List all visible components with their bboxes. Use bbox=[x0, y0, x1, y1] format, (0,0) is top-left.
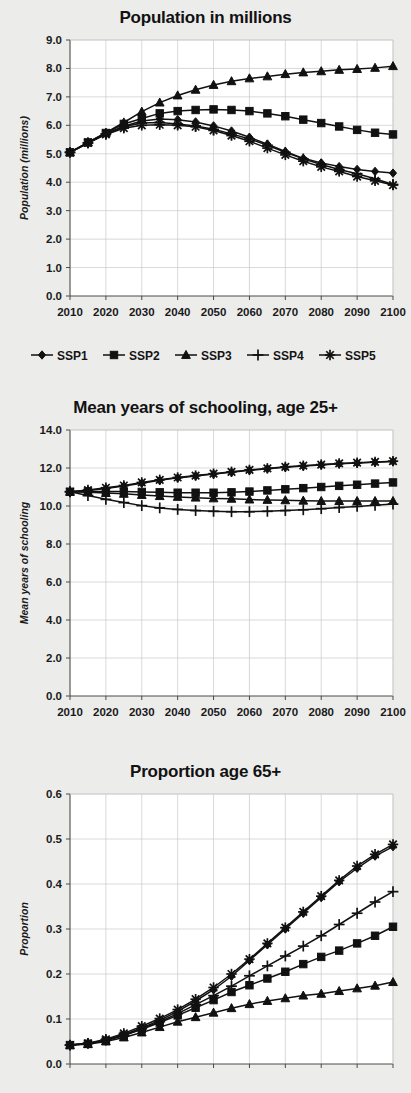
legend-label-SSP2: SSP2 bbox=[129, 349, 160, 363]
marker-SSP5 bbox=[101, 1034, 111, 1044]
legend-entry-SSP4 bbox=[247, 350, 269, 361]
figure-page: Population in millions 0.01.02.03.04.05.… bbox=[0, 0, 411, 1093]
marker-SSP5 bbox=[316, 891, 326, 901]
marker-SSP5 bbox=[101, 129, 111, 139]
x-tick-label: 2090 bbox=[344, 306, 370, 318]
chart-panel-population: Population in millions 0.01.02.03.04.05.… bbox=[0, 0, 411, 386]
y-tick-label: 0.0 bbox=[46, 290, 62, 302]
marker-SSP2 bbox=[353, 481, 360, 488]
marker-SSP2 bbox=[389, 923, 396, 930]
y-tick-label: 2.0 bbox=[46, 652, 62, 664]
marker-SSP5 bbox=[280, 150, 290, 160]
marker-SSP2 bbox=[264, 110, 271, 117]
x-tick-label: 2010 bbox=[57, 706, 83, 718]
marker-SSP5 bbox=[83, 138, 93, 148]
legend-entry-SSP5 bbox=[319, 350, 341, 360]
marker-SSP5 bbox=[370, 176, 380, 186]
schooling-chart-svg: 0.02.04.06.08.010.012.014.02010202020302… bbox=[0, 418, 411, 738]
marker-SSP2 bbox=[192, 106, 199, 113]
marker-SSP2 bbox=[246, 982, 253, 989]
marker-SSP5 bbox=[334, 458, 344, 468]
marker-SSP5 bbox=[101, 483, 111, 493]
x-tick-label: 2090 bbox=[344, 706, 370, 718]
marker-SSP2 bbox=[335, 482, 342, 489]
marker-SSP5 bbox=[244, 954, 254, 964]
marker-SSP5 bbox=[119, 123, 129, 133]
marker-SSP5 bbox=[262, 463, 272, 473]
y-tick-label: 1.0 bbox=[46, 262, 62, 274]
chart-title-population: Population in millions bbox=[0, 8, 411, 28]
marker-SSP2 bbox=[282, 486, 289, 493]
x-tick-label: 2030 bbox=[129, 706, 155, 718]
x-tick-label: 2020 bbox=[93, 706, 119, 718]
marker-SSP5 bbox=[262, 143, 272, 153]
y-tick-label: 3.0 bbox=[46, 205, 62, 217]
marker-SSP5 bbox=[208, 982, 218, 992]
y-tick-label: 5.0 bbox=[46, 148, 62, 160]
x-tick-label: 2040 bbox=[165, 306, 191, 318]
y-tick-label: 0.6 bbox=[46, 788, 62, 800]
x-tick-label: 2070 bbox=[273, 306, 299, 318]
legend-marker-asterisk bbox=[325, 350, 335, 360]
marker-SSP2 bbox=[371, 129, 378, 136]
marker-SSP5 bbox=[316, 162, 326, 172]
marker-SSP5 bbox=[119, 480, 129, 490]
x-tick-label: 2060 bbox=[237, 706, 263, 718]
chart-legend: SSP1SSP2SSP3SSP4SSP5 bbox=[0, 338, 411, 372]
marker-SSP2 bbox=[318, 483, 325, 490]
marker-SSP5 bbox=[316, 459, 326, 469]
marker-SSP5 bbox=[65, 1040, 75, 1050]
marker-SSP5 bbox=[155, 1013, 165, 1023]
legend-marker-diamond bbox=[38, 351, 45, 359]
marker-SSP5 bbox=[226, 467, 236, 477]
marker-SSP5 bbox=[388, 180, 398, 190]
marker-SSP5 bbox=[280, 462, 290, 472]
marker-SSP5 bbox=[190, 470, 200, 480]
marker-SSP5 bbox=[352, 861, 362, 871]
marker-SSP2 bbox=[389, 479, 396, 486]
marker-SSP5 bbox=[155, 120, 165, 130]
y-tick-label: 0.0 bbox=[46, 1058, 62, 1070]
marker-SSP5 bbox=[155, 475, 165, 485]
x-tick-label: 2050 bbox=[201, 306, 227, 318]
x-tick-label: 2100 bbox=[380, 706, 406, 718]
x-tick-label: 2060 bbox=[237, 306, 263, 318]
population-chart-svg: 0.01.02.03.04.05.06.07.08.09.02010202020… bbox=[0, 28, 411, 338]
legend-entry-SSP3 bbox=[175, 350, 197, 358]
marker-SSP5 bbox=[298, 156, 308, 166]
chart-panel-proportion: Proportion age 65+ 0.00.10.20.30.40.50.6… bbox=[0, 748, 411, 1093]
marker-SSP2 bbox=[371, 932, 378, 939]
marker-SSP2 bbox=[300, 960, 307, 967]
marker-SSP2 bbox=[371, 480, 378, 487]
legend-label-SSP3: SSP3 bbox=[201, 349, 232, 363]
marker-SSP5 bbox=[388, 456, 398, 466]
marker-SSP2 bbox=[228, 106, 235, 113]
marker-SSP5 bbox=[83, 485, 93, 495]
marker-SSP5 bbox=[208, 125, 218, 135]
y-tick-label: 0.5 bbox=[46, 833, 63, 845]
y-tick-label: 8.0 bbox=[46, 538, 62, 550]
y-tick-label: 9.0 bbox=[46, 34, 62, 46]
y-tick-label: 8.0 bbox=[46, 62, 62, 74]
legend-label-SSP4: SSP4 bbox=[273, 349, 304, 363]
marker-SSP2 bbox=[335, 123, 342, 130]
x-tick-label: 2080 bbox=[308, 306, 334, 318]
y-tick-label: 6.0 bbox=[46, 576, 62, 588]
y-tick-label: 10.0 bbox=[40, 500, 62, 512]
marker-SSP2 bbox=[282, 968, 289, 975]
chart-title-proportion: Proportion age 65+ bbox=[0, 762, 411, 782]
x-tick-label: 2030 bbox=[129, 306, 155, 318]
marker-SSP5 bbox=[352, 171, 362, 181]
proportion-chart-svg: 0.00.10.20.30.40.50.6Proportion bbox=[0, 782, 411, 1092]
x-tick-label: 2070 bbox=[273, 706, 299, 718]
marker-SSP5 bbox=[119, 1028, 129, 1038]
marker-SSP5 bbox=[208, 469, 218, 479]
y-tick-label: 0.0 bbox=[46, 690, 62, 702]
y-tick-label: 4.0 bbox=[46, 176, 62, 188]
marker-SSP5 bbox=[244, 465, 254, 475]
marker-SSP5 bbox=[172, 472, 182, 482]
legend-marker-plus bbox=[253, 350, 264, 361]
marker-SSP5 bbox=[172, 1004, 182, 1014]
y-tick-label: 0.3 bbox=[46, 923, 62, 935]
marker-SSP5 bbox=[137, 120, 147, 130]
